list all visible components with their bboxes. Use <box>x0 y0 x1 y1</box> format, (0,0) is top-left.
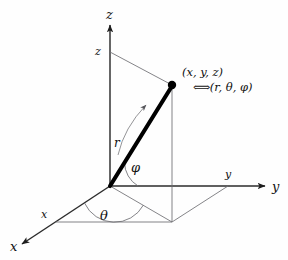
theta-arc <box>85 203 144 222</box>
theta-angle-label: θ <box>100 209 108 222</box>
x-component-label: x <box>41 209 47 220</box>
z-height-to-point-line <box>110 52 172 85</box>
spherical-coordinates-figure: z y x z y x θ φ r (x, y, z) ⟺(r, θ, φ) <box>0 0 288 260</box>
radius-label: r <box>114 137 120 149</box>
z-component-label: z <box>95 46 101 57</box>
xy-projection-to-y-axis-line <box>172 186 228 222</box>
y-component-label: y <box>225 169 231 180</box>
point-marker-dot <box>168 81 176 89</box>
spherical-coordinates-row: ⟺(r, θ, φ) <box>182 80 253 95</box>
x-axis <box>22 186 110 244</box>
coordinate-diagram-svg <box>0 0 288 260</box>
z-axis-label: z <box>106 8 113 21</box>
coordinate-equivalence-annotation: (x, y, z) ⟺(r, θ, φ) <box>182 66 253 94</box>
y-axis-label: y <box>272 180 279 193</box>
x-axis-label: x <box>10 240 17 253</box>
phi-angle-label: φ <box>131 161 140 174</box>
equivalence-arrow-icon: ⟺ <box>193 80 210 94</box>
cartesian-coordinates-label: (x, y, z) <box>182 66 253 80</box>
spherical-coordinates-label: (r, θ, φ) <box>210 80 253 94</box>
origin-to-xy-projection-line <box>110 186 172 222</box>
